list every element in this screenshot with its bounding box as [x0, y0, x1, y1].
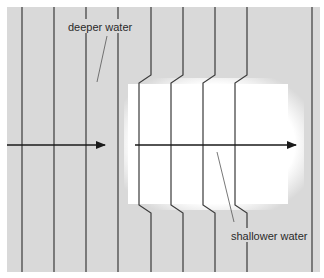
deeper-water-label: deeper water — [68, 21, 132, 33]
shallower-water-label: shallower water — [231, 230, 307, 242]
